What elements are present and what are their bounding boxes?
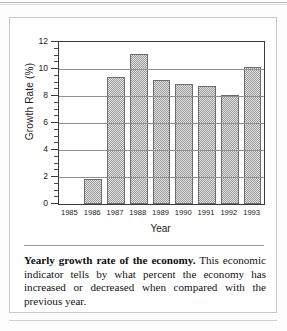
y-tick-8 (51, 95, 58, 96)
y-tick-minor (54, 88, 58, 89)
y-tick-minor (54, 109, 58, 110)
y-tick-4 (51, 149, 58, 150)
y-tick-minor (54, 163, 58, 164)
y-tick-minor (54, 183, 58, 184)
bar-1993 (244, 67, 262, 204)
y-tick-0 (51, 203, 58, 204)
y-tick-minor (54, 75, 58, 76)
y-tick-minor (54, 196, 58, 197)
y-tick-minor (54, 61, 58, 62)
page-top-rule (0, 2, 287, 3)
y-tick-10 (51, 68, 58, 69)
y-tick-minor (54, 48, 58, 49)
bar-1986 (84, 179, 102, 204)
y-tick-label-0: 0 (26, 198, 48, 208)
x-tick-label-1992: 1992 (220, 208, 237, 217)
y-tick-label-8: 8 (26, 90, 48, 100)
y-tick-label-2: 2 (26, 171, 48, 181)
gridline-10 (59, 69, 264, 70)
x-tick-label-1989: 1989 (152, 208, 169, 217)
figure-caption: Yearly growth rate of the economy. This … (24, 254, 266, 308)
y-tick-minor (54, 169, 58, 170)
x-tick-label-1993: 1993 (243, 208, 260, 217)
y-tick-label-4: 4 (26, 144, 48, 154)
y-tick-minor (54, 129, 58, 130)
bar-1989 (153, 80, 171, 204)
y-tick-minor (54, 156, 58, 157)
bar-1988 (130, 54, 148, 204)
y-tick-minor (54, 115, 58, 116)
y-tick-12 (51, 41, 58, 42)
x-tick-label-1991: 1991 (198, 208, 215, 217)
page-bottom-rule (9, 320, 277, 321)
y-tick-minor (54, 136, 58, 137)
y-tick-minor (54, 190, 58, 191)
figure-root: Growth Rate (%) 024681012 19851986198719… (0, 0, 287, 331)
gridline-2 (59, 177, 264, 178)
bar-chart: Growth Rate (%) 024681012 19851986198719… (10, 18, 278, 233)
x-axis-tick-labels: 198519861987198819891990199119921993 (58, 208, 263, 220)
y-tick-2 (51, 176, 58, 177)
y-tick-minor (54, 82, 58, 83)
plot-area (58, 41, 265, 205)
y-tick-6 (51, 122, 58, 123)
y-tick-minor (54, 55, 58, 56)
y-tick-label-12: 12 (26, 36, 48, 46)
caption-divider (24, 245, 264, 246)
x-tick-label-1985: 1985 (61, 208, 78, 217)
gridline-8 (59, 96, 264, 97)
x-tick-label-1987: 1987 (106, 208, 123, 217)
caption-lead: Yearly growth rate of the economy. (24, 254, 195, 266)
x-axis-label: Year (58, 223, 263, 234)
figure-box: Growth Rate (%) 024681012 19851986198719… (9, 17, 277, 313)
y-tick-minor (54, 102, 58, 103)
x-tick-label-1988: 1988 (129, 208, 146, 217)
page-top-rule-secondary (0, 4, 287, 5)
gridline-6 (59, 123, 264, 124)
gridline-4 (59, 150, 264, 151)
y-tick-label-10: 10 (26, 63, 48, 73)
y-tick-minor (54, 142, 58, 143)
bar-1991 (198, 86, 216, 204)
x-tick-label-1990: 1990 (175, 208, 192, 217)
x-tick-label-1986: 1986 (84, 208, 101, 217)
bar-1990 (175, 84, 193, 204)
y-tick-label-6: 6 (26, 117, 48, 127)
